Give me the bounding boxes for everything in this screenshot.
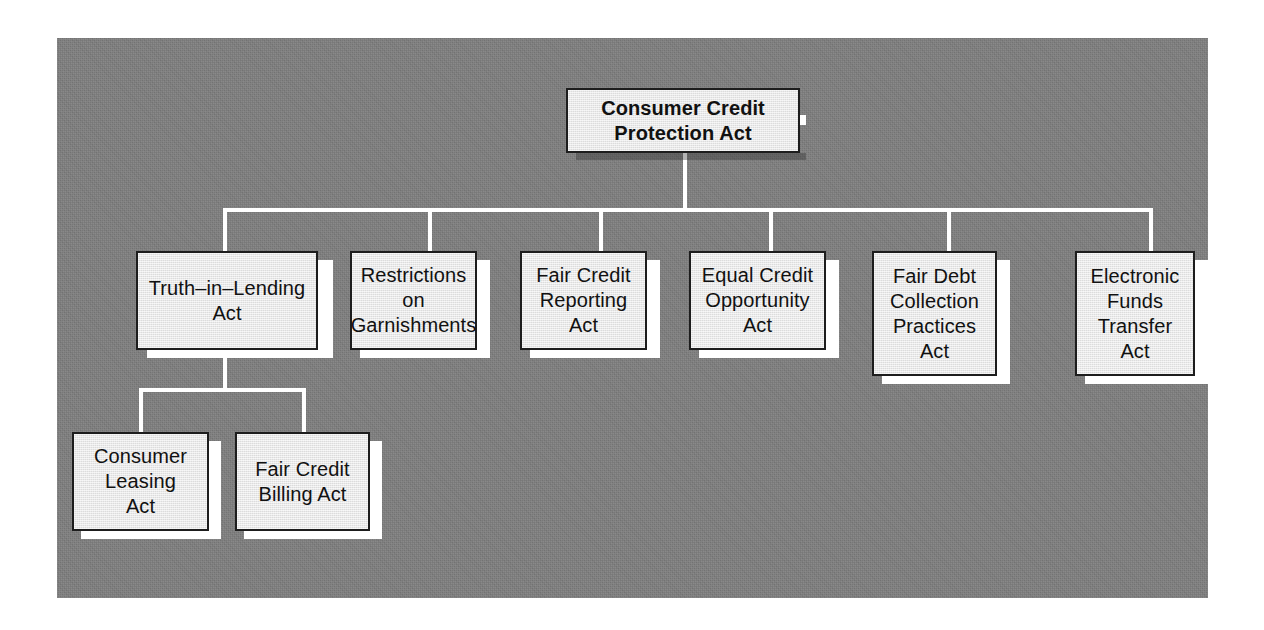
connector-drop-restrictions <box>428 208 432 251</box>
node-truth-in-lending-act[interactable]: Truth–in–Lending Act <box>136 251 318 350</box>
root-under-shading <box>576 153 806 160</box>
node-electronic-funds-transfer-act[interactable]: Electronic Funds Transfer Act <box>1075 251 1195 376</box>
node-restrictions-on-garnishments[interactable]: Restrictions on Garnishments <box>350 251 477 350</box>
connector-drop-equal-credit <box>769 208 773 251</box>
node-equal-credit-opportunity-act[interactable]: Equal Credit Opportunity Act <box>689 251 826 350</box>
page-root: Consumer Credit Protection Act Truth–in–… <box>0 0 1264 630</box>
node-fair-debt-collection-practices-act[interactable]: Fair Debt Collection Practices Act <box>872 251 997 376</box>
connector-root-stem <box>683 153 687 210</box>
connector-drop-consumer-leasing <box>139 388 143 432</box>
connector-drop-fair-credit-billing <box>302 388 306 432</box>
node-fair-credit-billing-act[interactable]: Fair Credit Billing Act <box>235 432 370 531</box>
diagram-canvas: Consumer Credit Protection Act Truth–in–… <box>57 38 1208 598</box>
connector-main-bus <box>223 208 1153 212</box>
connector-drop-fair-debt <box>947 208 951 251</box>
connector-sub-bus <box>139 388 306 392</box>
connector-drop-electronic-funds <box>1149 208 1153 251</box>
node-fair-credit-reporting-act[interactable]: Fair Credit Reporting Act <box>520 251 647 350</box>
node-consumer-leasing-act[interactable]: Consumer Leasing Act <box>72 432 209 531</box>
connector-drop-truth-in-lending <box>223 208 227 251</box>
connector-drop-fair-credit-reporting <box>599 208 603 251</box>
node-consumer-credit-protection-act[interactable]: Consumer Credit Protection Act <box>566 88 800 153</box>
